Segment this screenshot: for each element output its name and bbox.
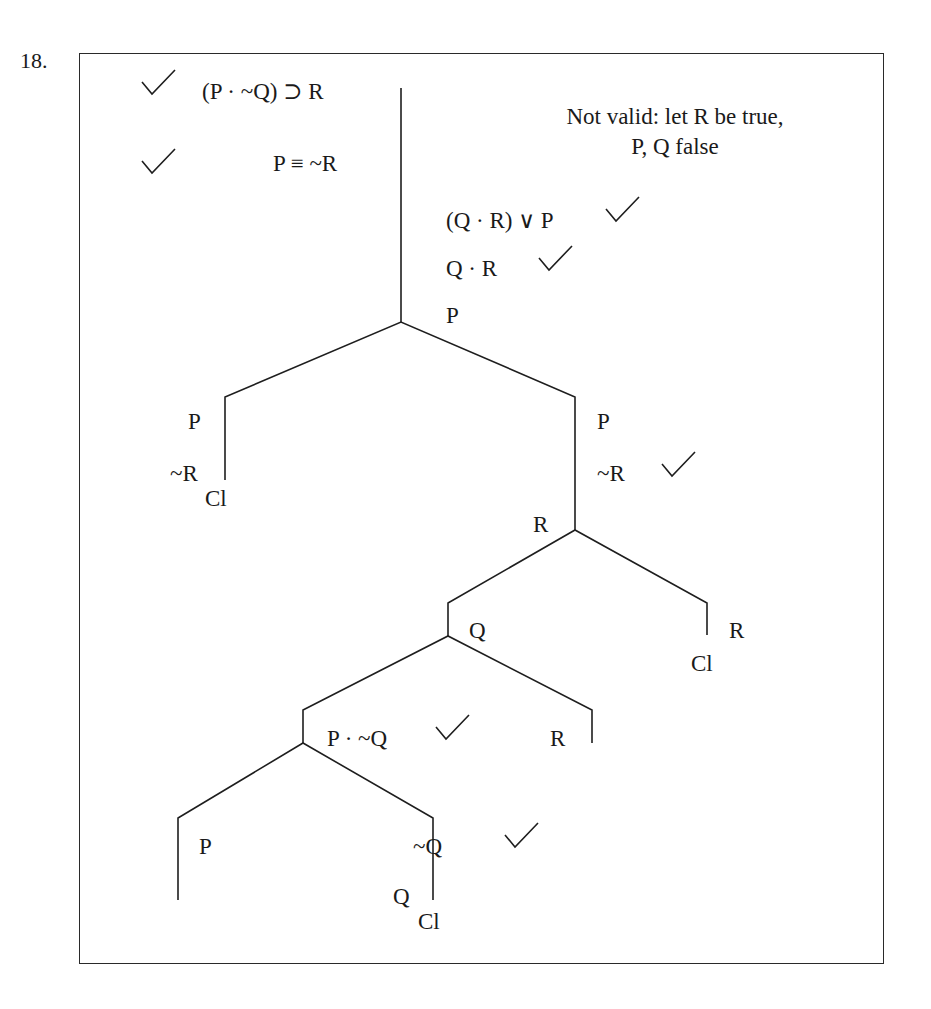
split-2-lines: [448, 530, 707, 636]
truth-tree-canvas: 18. (P · ~Q) ⊃ R P ≡ ~R Not valid: let R…: [0, 0, 931, 1009]
branch-3L-line: P · ~Q: [327, 727, 387, 750]
branch-4R-line-2: Q: [393, 885, 410, 908]
trunk-line-3: P: [446, 304, 459, 327]
branch-2L-line: Q: [469, 619, 486, 642]
verdict-line-2: P, Q false: [540, 132, 810, 162]
verdict-line-1: Not valid: let R be true,: [540, 102, 810, 132]
verdict-note: Not valid: let R be true, P, Q false: [540, 102, 810, 162]
branch-1R-line-3: R: [533, 513, 548, 536]
premise-2: P ≡ ~R: [273, 152, 337, 175]
split-4-lines: [178, 743, 433, 900]
branch-1R-line-1: P: [597, 410, 610, 433]
check-mark-icon: [604, 195, 642, 225]
closed-label: Cl: [205, 487, 227, 510]
branch-1L-line-1: P: [188, 410, 201, 433]
check-mark-icon: [660, 450, 698, 480]
check-mark-icon: [537, 244, 575, 274]
branch-2R-line: R: [729, 619, 744, 642]
check-mark-icon: [140, 68, 178, 98]
branch-4L-line: P: [199, 835, 212, 858]
branch-4R-line-1: ~Q: [413, 835, 442, 858]
branch-1R-line-2: ~R: [597, 462, 625, 485]
branch-1L-line-2: ~R: [170, 462, 198, 485]
trunk-line-2: Q · R: [446, 257, 497, 280]
premise-1: (P · ~Q) ⊃ R: [202, 80, 324, 103]
check-mark-icon: [503, 821, 541, 851]
split-1-lines: [225, 322, 575, 530]
branch-3R-line: R: [550, 727, 565, 750]
closed-label: Cl: [691, 652, 713, 675]
closed-label: Cl: [418, 910, 440, 933]
check-mark-icon: [140, 147, 178, 177]
check-mark-icon: [434, 713, 472, 743]
trunk-line-1: (Q · R) ∨ P: [446, 209, 554, 232]
